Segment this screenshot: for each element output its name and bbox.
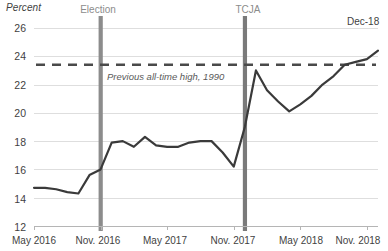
gridlines — [34, 29, 378, 227]
data-series-line — [34, 51, 378, 194]
chart-container: Percent 26 24 22 20 18 16 14 12 May 2016… — [0, 0, 388, 251]
plot-area — [0, 0, 388, 251]
event-band-election — [99, 16, 103, 231]
